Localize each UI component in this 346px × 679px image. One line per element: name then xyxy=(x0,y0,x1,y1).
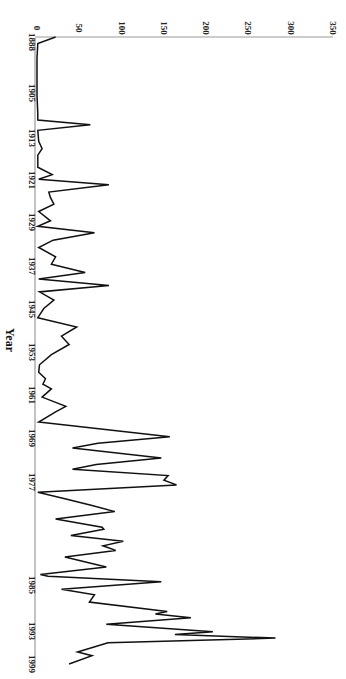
value-tick-label: 0 xyxy=(32,26,42,31)
value-tick-label: 200 xyxy=(201,21,211,35)
value-tick-label: 50 xyxy=(74,24,84,34)
year-axis-ticks: 1888190519131921192919371945195319611969… xyxy=(27,33,37,674)
year-tick-label: 1999 xyxy=(27,655,37,674)
year-tick-label: 1969 xyxy=(27,429,37,448)
data-line xyxy=(37,37,276,664)
year-tick-label: 1913 xyxy=(27,129,37,148)
value-tick-label: 350 xyxy=(328,21,338,35)
line-chart: 050100150200250300350 188819051913192119… xyxy=(0,0,346,679)
value-tick-label: 250 xyxy=(243,21,253,35)
year-tick-label: 1945 xyxy=(27,300,37,319)
value-tick-label: 300 xyxy=(286,21,296,35)
year-tick-label: 1953 xyxy=(27,343,37,362)
year-tick-label: 1985 xyxy=(27,576,37,595)
year-tick-label: 1905 xyxy=(27,84,37,103)
value-tick-label: 100 xyxy=(117,21,127,35)
year-tick-label: 1977 xyxy=(27,473,37,492)
year-tick-label: 1929 xyxy=(27,213,37,232)
year-tick-label: 1888 xyxy=(27,33,37,52)
year-tick-label: 1937 xyxy=(27,257,37,276)
year-axis-title: Year xyxy=(3,328,17,353)
year-tick-label: 1961 xyxy=(27,386,37,405)
year-tick-label: 1993 xyxy=(27,622,37,641)
year-tick-label: 1921 xyxy=(27,171,37,190)
value-tick-label: 150 xyxy=(159,21,169,35)
value-axis-ticks: 050100150200250300350 xyxy=(32,21,338,35)
